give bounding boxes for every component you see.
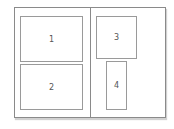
box-4-label: 4 [114,81,119,90]
box-1: 1 [20,16,83,62]
box-3-label: 3 [114,33,119,42]
box-3: 3 [96,16,137,59]
box-1-label: 1 [49,35,54,44]
panel-divider [90,7,91,118]
box-2-label: 2 [49,83,54,92]
box-2: 2 [20,64,83,110]
box-4: 4 [106,61,127,110]
